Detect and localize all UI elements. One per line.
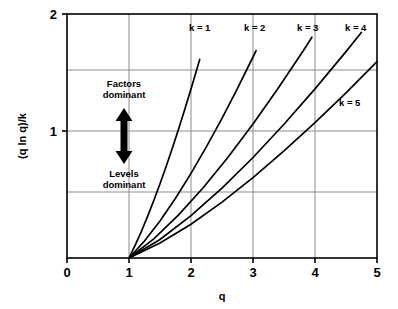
x-tick-label-3: 3 <box>249 265 256 280</box>
chart-svg: k = 1 k = 2 k = 3 k = 4 k = 5 Factors do… <box>0 0 398 309</box>
y-tick-label-2: 2 <box>50 7 57 22</box>
annotation-factors-line1: Factors <box>107 78 141 89</box>
curve-label-k1: k = 1 <box>189 22 211 33</box>
y-axis-title: (q ln q)/k <box>16 112 28 159</box>
x-tick-label-1: 1 <box>125 265 132 280</box>
annotation-levels-line2: dominant <box>103 179 147 190</box>
annotation-levels-line1: Levels <box>109 168 139 179</box>
chart-container: k = 1 k = 2 k = 3 k = 4 k = 5 Factors do… <box>0 0 398 309</box>
curve-label-k5: k = 5 <box>339 97 361 108</box>
x-tick-label-5: 5 <box>373 265 380 280</box>
curve-label-k3: k = 3 <box>297 22 318 33</box>
x-tick-label-0: 0 <box>63 265 70 280</box>
y-tick-label-1: 1 <box>50 124 57 139</box>
annotation-factors-line2: dominant <box>103 89 147 100</box>
x-axis-title: q <box>219 290 226 302</box>
x-tick-label-2: 2 <box>187 265 194 280</box>
curve-label-k4: k = 4 <box>345 22 367 33</box>
curve-label-k2: k = 2 <box>244 22 265 33</box>
plot-area-background <box>67 14 377 258</box>
x-tick-label-4: 4 <box>311 265 319 280</box>
